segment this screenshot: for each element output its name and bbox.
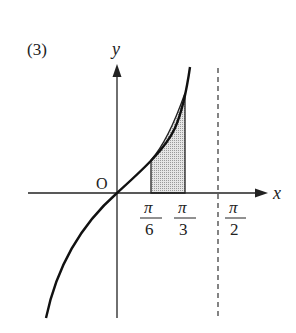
y-axis-label: y xyxy=(110,39,120,59)
problem-label: (3) xyxy=(27,40,47,59)
graph: (3) y x O π 6 π 3 π 2 xyxy=(0,0,296,333)
tick-pi6-num: π xyxy=(144,198,153,217)
shaded-area xyxy=(151,93,185,193)
origin-label: O xyxy=(96,175,108,192)
tick-pi6-den: 6 xyxy=(145,220,154,239)
tick-pi2-num: π xyxy=(229,198,238,217)
tick-pi3-num: π xyxy=(178,198,187,217)
tick-pi2-den: 2 xyxy=(230,220,239,239)
y-axis-arrow-icon xyxy=(113,64,122,77)
tick-pi3-den: 3 xyxy=(179,220,188,239)
x-axis-arrow-icon xyxy=(255,189,268,198)
x-axis-label: x xyxy=(272,183,281,203)
